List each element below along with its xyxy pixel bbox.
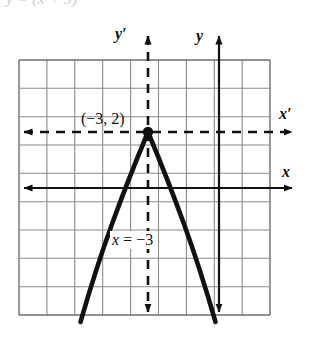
vertex-point-marker bbox=[143, 127, 153, 137]
y-prime-axis-label: y′ bbox=[115, 25, 127, 43]
vertex-point-label: (−3, 2) bbox=[81, 110, 125, 128]
axis-of-symmetry-equation: = −3 bbox=[123, 231, 153, 248]
clipped-header-text: y = (x + 3) bbox=[6, 0, 78, 8]
coordinate-graph-figure: y = (x + 3) bbox=[0, 0, 318, 341]
axis-of-symmetry-variable: x bbox=[112, 231, 119, 248]
x-axis-label: x bbox=[282, 163, 290, 181]
x-prime-axis-label: x′ bbox=[279, 105, 292, 123]
y-axis-label: y bbox=[196, 27, 203, 45]
graph-canvas bbox=[0, 0, 318, 341]
axis-of-symmetry-label: x = −3 bbox=[110, 231, 155, 249]
